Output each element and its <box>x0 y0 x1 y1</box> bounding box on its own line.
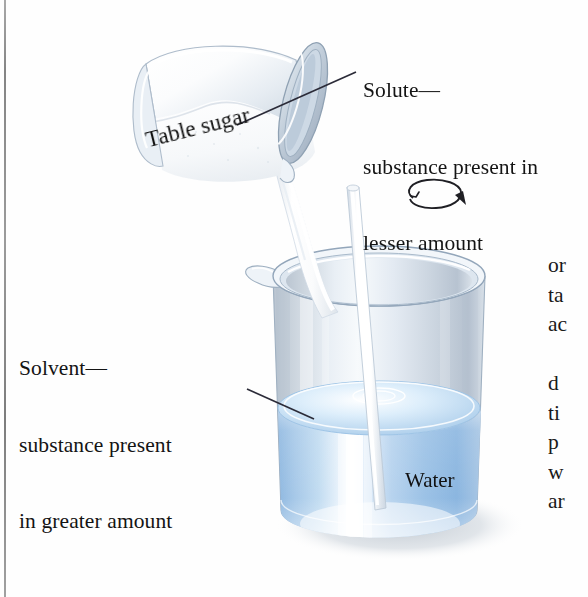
solute-line-2: substance present in <box>363 155 538 181</box>
water-label: Water <box>405 468 455 493</box>
solvent-line-2: substance present <box>19 433 172 459</box>
body-text-fragment-a: or ta ac <box>548 251 588 331</box>
body-text-fragment-b: d ti p w ar <box>548 369 588 544</box>
solute-annotation: Solute— substance present in lesser amou… <box>363 27 538 308</box>
solute-line-3: lesser amount <box>363 231 538 257</box>
solute-line-1: Solute— <box>363 78 538 104</box>
solvent-line-3: in greater amount <box>19 509 172 535</box>
figure-page: Solute— substance present in lesser amou… <box>0 0 588 597</box>
solvent-line-1: Solvent— <box>19 356 172 382</box>
solvent-annotation: Solvent— substance present in greater am… <box>19 305 172 586</box>
